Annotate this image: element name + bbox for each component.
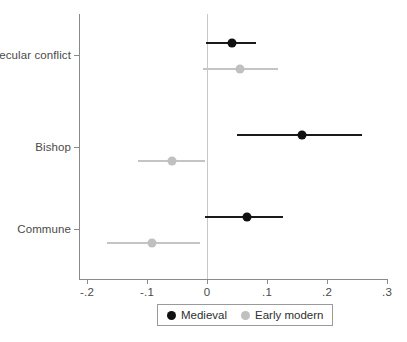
y-axis-category-label: Commune — [17, 223, 71, 235]
estimate-point-marker — [228, 39, 237, 48]
legend-marker-icon — [167, 311, 176, 320]
x-axis-tick-label: .1 — [262, 286, 272, 298]
legend-entry-medieval: Medieval — [167, 309, 227, 321]
legend-label: Early modern — [255, 309, 323, 321]
y-axis-category-label: Secular conflict — [0, 49, 71, 61]
estimate-point-marker — [147, 239, 156, 248]
x-axis-tick-label: -.2 — [80, 286, 94, 298]
x-axis-tick-label: -.1 — [140, 286, 154, 298]
legend-entry-early-modern: Early modern — [241, 309, 323, 321]
y-axis-tick — [74, 229, 80, 230]
estimate-point-marker — [243, 213, 252, 222]
y-axis-tick — [74, 147, 80, 148]
x-axis-tick — [267, 279, 268, 284]
x-axis-tick — [87, 279, 88, 284]
x-axis-tick-label: 0 — [204, 286, 211, 298]
estimate-point-marker — [236, 65, 245, 74]
x-axis-tick-label: .2 — [322, 286, 332, 298]
x-axis-tick — [147, 279, 148, 284]
chart-legend: Medieval Early modern — [157, 304, 333, 326]
estimate-point-marker — [168, 157, 177, 166]
x-axis-tick — [327, 279, 328, 284]
legend-marker-icon — [241, 311, 250, 320]
x-axis-tick — [207, 279, 208, 284]
legend-label: Medieval — [181, 309, 227, 321]
y-axis-category-label: Bishop — [35, 141, 71, 153]
x-axis-tick-label: .3 — [382, 286, 392, 298]
zero-reference-line — [207, 14, 208, 279]
coefficient-plot-figure: -.2-.10.1.2.3 Secular conflictBishopComm… — [0, 0, 407, 342]
y-axis-tick — [74, 55, 80, 56]
estimate-point-marker — [297, 131, 306, 140]
x-axis-spine — [79, 279, 387, 280]
x-axis-tick — [387, 279, 388, 284]
